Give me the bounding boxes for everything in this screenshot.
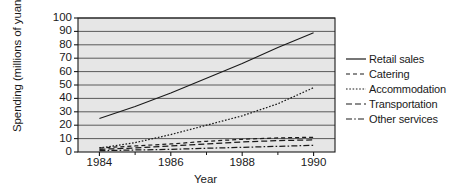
x-axis-label: Year <box>78 173 333 185</box>
legend-label: Catering <box>367 68 409 80</box>
x-tick-label: 1984 <box>79 156 119 168</box>
legend-label: Retail sales <box>367 53 424 65</box>
legend-line-sample-icon <box>345 54 367 64</box>
legend-label: Transportation <box>367 98 437 110</box>
chart-legend: Retail salesCateringAccommodationTranspo… <box>345 51 457 127</box>
legend-line-sample-icon <box>345 69 367 79</box>
legend-item: Accommodation <box>345 81 457 96</box>
legend-line-sample-icon <box>345 114 367 124</box>
legend-item: Retail sales <box>345 51 457 66</box>
x-tick-label: 1986 <box>151 156 191 168</box>
chart-figure: Spending (millions of yuan) 010203040506… <box>0 0 458 193</box>
legend-line-sample-icon <box>345 99 367 109</box>
legend-label: Accommodation <box>367 83 446 95</box>
legend-label: Other services <box>367 113 438 125</box>
x-tick-label: 1988 <box>222 156 262 168</box>
legend-item: Catering <box>345 66 457 81</box>
legend-item: Other services <box>345 112 457 127</box>
x-tick-label: 1990 <box>294 156 334 168</box>
legend-line-sample-icon <box>345 84 367 94</box>
legend-item: Transportation <box>345 97 457 112</box>
